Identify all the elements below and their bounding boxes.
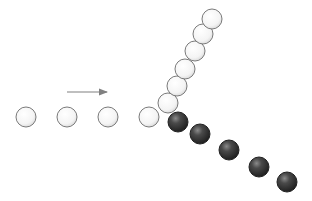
white-ball — [175, 59, 195, 79]
white-ball — [16, 107, 36, 127]
white-ball — [57, 107, 77, 127]
white-ball — [139, 107, 159, 127]
scattered-dark-ball-path — [168, 112, 297, 192]
dark-ball — [249, 157, 269, 177]
collision-diagram — [0, 0, 312, 201]
dark-ball — [168, 112, 188, 132]
white-ball — [98, 107, 118, 127]
dark-ball — [219, 140, 239, 160]
scattered-white-ball-path — [158, 9, 222, 113]
dark-ball — [190, 124, 210, 144]
white-ball — [202, 9, 222, 29]
incoming-ball-path — [16, 107, 159, 127]
dark-ball — [277, 172, 297, 192]
